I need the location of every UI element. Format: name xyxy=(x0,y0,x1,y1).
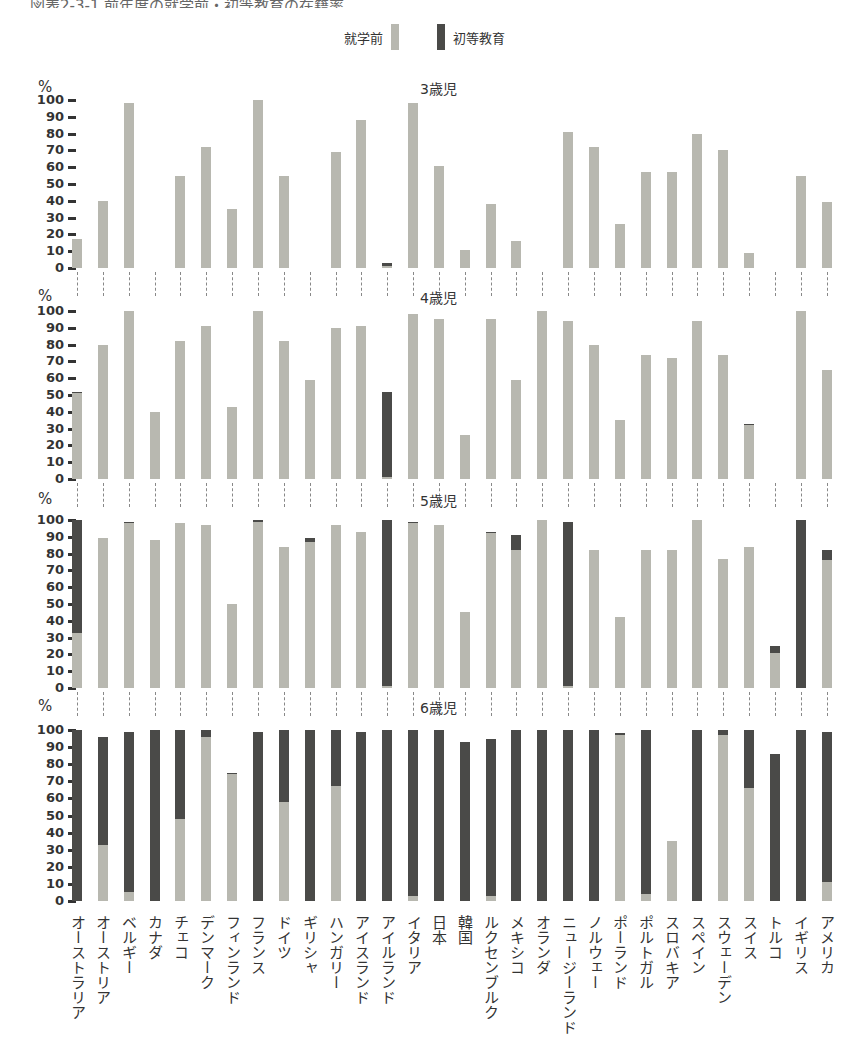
unit-label: % xyxy=(38,490,52,508)
bar-segment-preschool xyxy=(227,604,237,688)
guide-line xyxy=(646,692,647,716)
y-tick-label: 30 xyxy=(24,843,64,857)
guide-line xyxy=(516,483,517,507)
bar-segment-preschool xyxy=(692,134,702,268)
bar-チェコ xyxy=(175,176,185,268)
bar-segment-preschool xyxy=(744,788,754,901)
x-axis-label: ニュージーランド xyxy=(560,915,576,1035)
guide-line xyxy=(801,272,802,296)
bar-アメリカ xyxy=(822,370,832,479)
guide-line xyxy=(129,483,130,507)
bar-オーストラリア xyxy=(72,730,82,901)
guide-line xyxy=(775,272,776,296)
bar-スウェーデン xyxy=(718,730,728,901)
bar-segment-preschool xyxy=(641,172,651,268)
bar-スウェーデン xyxy=(718,559,728,688)
bar-チェコ xyxy=(175,730,185,901)
guide-line xyxy=(620,272,621,296)
bar-segment-preschool xyxy=(511,241,521,268)
guide-line xyxy=(491,272,492,296)
bar-スイス xyxy=(744,253,754,268)
y-tick-label: 50 xyxy=(24,388,64,402)
x-axis-label: メキシコ xyxy=(508,915,524,975)
bar-segment-preschool xyxy=(253,522,263,688)
guide-line xyxy=(749,272,750,296)
bar-スペイン xyxy=(692,134,702,268)
bar-カナダ xyxy=(150,412,160,479)
guide-line xyxy=(258,272,259,296)
panel-title: 3歳児 xyxy=(420,78,457,98)
x-axis-label: オランダ xyxy=(534,915,550,975)
y-tick-label: 40 xyxy=(24,194,64,208)
guide-line xyxy=(180,272,181,296)
bar-segment-primary xyxy=(589,730,599,901)
y-tick-label: 0 xyxy=(24,261,64,275)
guide-line xyxy=(568,272,569,296)
bar-デンマーク xyxy=(201,730,211,901)
y-tick-label: 20 xyxy=(24,860,64,874)
bar-segment-preschool xyxy=(692,520,702,688)
bar-segment-primary xyxy=(98,737,108,845)
bar-segment-primary xyxy=(408,730,418,896)
bar-segment-preschool xyxy=(331,328,341,479)
bar-ニュージーランド xyxy=(563,730,573,901)
y-tick-label: 70 xyxy=(24,563,64,577)
legend: 就学前 初等教育 xyxy=(0,22,848,52)
bar-segment-preschool xyxy=(408,523,418,688)
bar-segment-preschool xyxy=(537,520,547,688)
bar-オランダ xyxy=(537,730,547,901)
bar-segment-preschool xyxy=(408,103,418,268)
bar-segment-preschool xyxy=(822,560,832,688)
panel-title: 5歳児 xyxy=(420,490,457,510)
bar-segment-preschool xyxy=(150,412,160,479)
bar-ベルギー xyxy=(124,732,134,901)
y-tick-label: 0 xyxy=(24,894,64,908)
bar-segment-primary xyxy=(537,730,547,901)
bar-日本 xyxy=(434,525,444,688)
bar-ポーランド xyxy=(615,420,625,479)
bar-オーストリア xyxy=(98,737,108,901)
x-axis-label: スウェーデン xyxy=(715,915,731,1005)
guide-line xyxy=(336,272,337,296)
bar-segment-preschool xyxy=(615,735,625,901)
y-tick-label: 20 xyxy=(24,227,64,241)
bar-segment-primary xyxy=(796,520,806,688)
bar-segment-preschool xyxy=(486,204,496,268)
bar-オーストラリア xyxy=(72,392,82,479)
bar-segment-preschool xyxy=(667,841,677,901)
bar-segment-preschool xyxy=(667,172,677,268)
bar-segment-preschool xyxy=(175,523,185,688)
legend-item-preschool: 就学前 xyxy=(344,24,399,50)
bar-スウェーデン xyxy=(718,355,728,479)
bar-segment-preschool xyxy=(511,550,521,688)
bar-segment-primary xyxy=(72,730,82,901)
panel-title: 4歳児 xyxy=(420,287,457,307)
guide-line xyxy=(672,692,673,716)
y-tick-label: 50 xyxy=(24,177,64,191)
guide-line xyxy=(284,483,285,507)
bar-segment-preschool xyxy=(563,321,573,479)
y-tick-label: 100 xyxy=(24,93,64,107)
y-tick-label: 70 xyxy=(24,774,64,788)
bar-トルコ xyxy=(770,646,780,688)
y-tick-label: 20 xyxy=(24,438,64,452)
bar-ニュージーランド xyxy=(563,132,573,268)
guide-line xyxy=(336,483,337,507)
guide-line xyxy=(542,272,543,296)
guide-line xyxy=(206,692,207,716)
x-axis-label: デンマーク xyxy=(198,915,214,990)
bar-segment-preschool xyxy=(356,120,366,268)
bar-segment-preschool xyxy=(796,176,806,268)
guide-line xyxy=(284,272,285,296)
guide-line xyxy=(206,272,207,296)
bar-segment-preschool xyxy=(822,882,832,901)
guide-line xyxy=(103,483,104,507)
bar-segment-preschool xyxy=(124,892,134,901)
guide-line xyxy=(155,272,156,296)
guide-line xyxy=(775,692,776,716)
y-tick-label: 50 xyxy=(24,809,64,823)
guide-line xyxy=(361,483,362,507)
bar-segment-primary xyxy=(331,730,341,786)
bar-segment-primary xyxy=(822,550,832,560)
guide-line xyxy=(232,483,233,507)
